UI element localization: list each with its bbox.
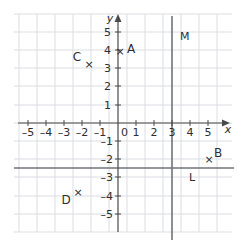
x-tick-label-1: 1 <box>133 126 140 139</box>
data-point-b: × B <box>204 146 222 166</box>
y-tick-label-1: 1 <box>104 99 111 112</box>
x-tick-label-5: 5 <box>205 126 212 139</box>
y-tick-label-5: 5 <box>104 26 111 39</box>
line-label-l: L <box>189 171 196 184</box>
point-marker-d: × <box>73 186 82 199</box>
point-label-c: C <box>73 50 81 64</box>
x-axis-label: x <box>224 123 232 136</box>
line-label-m: M <box>180 30 190 43</box>
x-tick-label-3: 3 <box>169 126 176 139</box>
point-label-b: B <box>214 146 222 160</box>
y-tick-label-neg3: –3 <box>101 171 114 184</box>
y-tick-label-neg5: –5 <box>101 208 114 221</box>
point-label-a: A <box>127 42 136 56</box>
point-marker-a: × <box>115 45 124 58</box>
x-tick-label-2: 2 <box>151 126 158 139</box>
coordinate-plane-figure: –5 –4 –3 –2 –1 1 2 3 4 5 5 4 3 2 1 –1 –2… <box>0 0 245 248</box>
origin-label: 0 <box>121 126 128 139</box>
y-tick-label-neg4: –4 <box>101 190 114 203</box>
x-tick-label-neg4: –4 <box>40 126 53 139</box>
y-tick-label-neg2: –2 <box>101 153 114 166</box>
point-marker-b: × <box>204 153 213 166</box>
y-tick-label-2: 2 <box>104 80 111 93</box>
y-axis-label: y <box>106 12 114 25</box>
y-tick-label-3: 3 <box>104 62 111 75</box>
x-tick-label-neg3: –3 <box>58 126 71 139</box>
coordinate-plane-svg: –5 –4 –3 –2 –1 1 2 3 4 5 5 4 3 2 1 –1 –2… <box>0 0 245 248</box>
y-tick-label-4: 4 <box>104 44 111 57</box>
x-tick-label-neg5: –5 <box>22 126 35 139</box>
x-axis-tick-labels: –5 –4 –3 –2 –1 1 2 3 4 5 <box>22 126 212 139</box>
x-tick-label-4: 4 <box>187 126 194 139</box>
x-tick-label-neg2: –2 <box>76 126 89 139</box>
y-tick-label-neg1: –1 <box>101 135 114 148</box>
point-label-d: D <box>61 193 70 207</box>
point-marker-c: × <box>84 58 93 71</box>
